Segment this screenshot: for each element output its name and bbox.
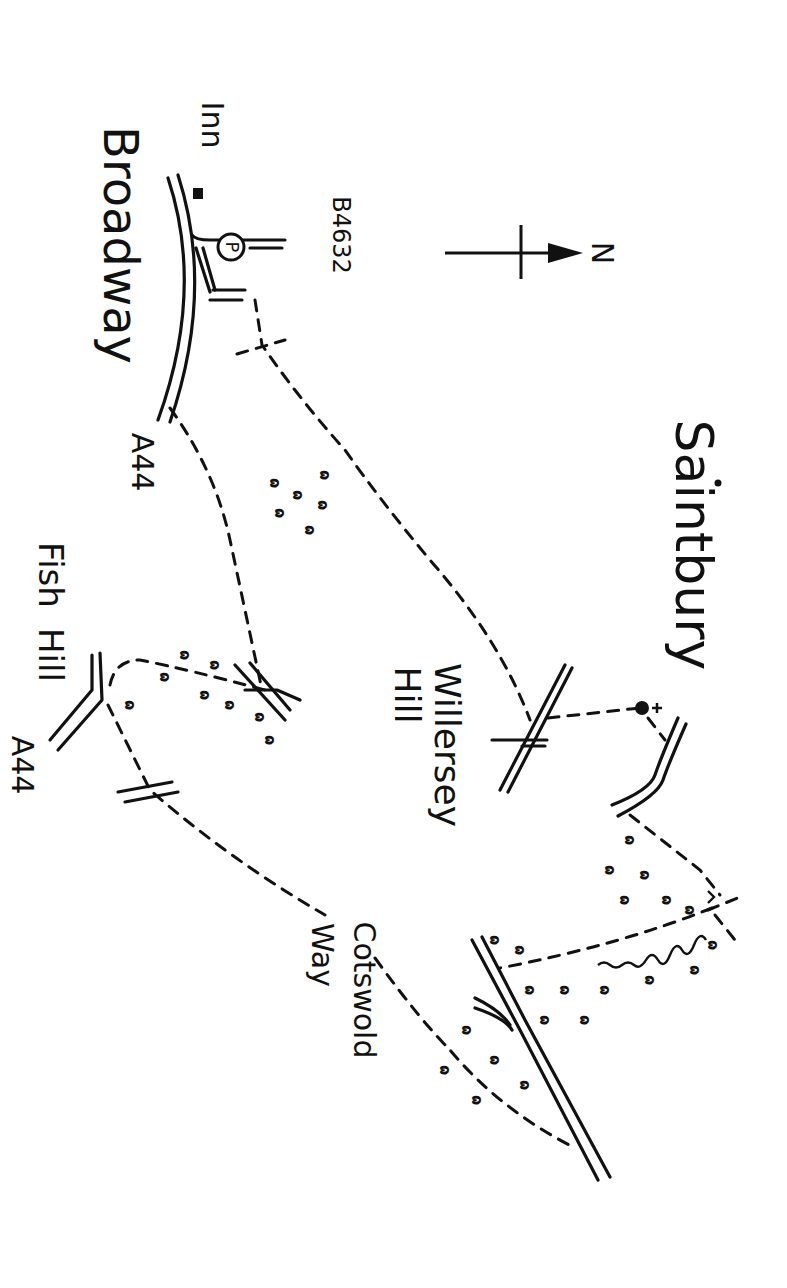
svg-text:ɷ: ɷ bbox=[636, 870, 654, 880]
place-label-broadway: Broadway bbox=[93, 126, 149, 364]
svg-text:ɷ: ɷ bbox=[261, 735, 279, 745]
svg-text:ɷ: ɷ bbox=[314, 500, 332, 510]
tree-cluster-saintbury: ɷ ɷ ɷ ɷ ɷ ɷ bbox=[601, 835, 699, 915]
footpath-cross-south bbox=[715, 915, 735, 940]
svg-text:ɷ: ɷ bbox=[316, 470, 334, 480]
saintbury-road bbox=[612, 718, 686, 816]
svg-text:ɷ: ɷ bbox=[596, 985, 614, 995]
place-label-willersey-hill: Hill bbox=[387, 666, 428, 723]
svg-text:ɷ: ɷ bbox=[289, 490, 307, 500]
svg-text:ɷ: ɷ bbox=[486, 935, 504, 945]
svg-text:ɷ: ɷ bbox=[156, 672, 174, 682]
north-label: N bbox=[585, 242, 620, 264]
svg-text:ɷ: ɷ bbox=[616, 895, 634, 905]
svg-text:ɷ: ɷ bbox=[511, 945, 529, 955]
svg-text:ɷ: ɷ bbox=[556, 985, 574, 995]
footpath-fishhill-loop bbox=[110, 660, 265, 690]
svg-text:ɷ: ɷ bbox=[206, 660, 224, 670]
svg-text:ɷ: ɷ bbox=[621, 835, 639, 845]
svg-text:ɷ: ɷ bbox=[686, 965, 704, 975]
footpath-broadway-fishhill bbox=[170, 408, 262, 690]
svg-text:ɷ: ɷ bbox=[486, 1055, 504, 1065]
place-label-inn: Inn bbox=[195, 102, 230, 149]
svg-text:ɷ: ɷ bbox=[704, 940, 722, 950]
svg-text:ɷ: ɷ bbox=[271, 508, 289, 518]
tree-cluster-cotswold: ɷ ɷ ɷ ɷ ɷ bbox=[436, 1025, 534, 1105]
road-label-a44-broadway: A44 bbox=[125, 433, 160, 492]
svg-text:ɷ: ɷ bbox=[458, 1025, 476, 1035]
footpath-broadway-willersey bbox=[255, 300, 530, 720]
svg-text:ɷ: ɷ bbox=[536, 1015, 554, 1025]
place-label-willersey: Willersey bbox=[427, 663, 468, 827]
svg-text:ɷ: ɷ bbox=[251, 712, 269, 722]
road-label-a44-fishhill: A44 bbox=[5, 736, 40, 795]
footpath-cotswold-way bbox=[375, 958, 575, 1148]
place-label-cotswold-way: Way bbox=[305, 923, 340, 987]
svg-text:ɷ: ɷ bbox=[468, 1095, 486, 1105]
walking-route-map: N P Broadway Inn B4632 A44 ɷ ɷ ɷ ɷ ɷ ɷ bbox=[0, 0, 787, 1288]
parking-label: P bbox=[222, 242, 243, 253]
svg-text:ɷ: ɷ bbox=[176, 650, 194, 660]
footpath-fishhill-cotswold bbox=[108, 705, 325, 915]
place-label-fish: Fish bbox=[31, 542, 71, 608]
svg-text:ɷ: ɷ bbox=[521, 985, 539, 995]
svg-text:ɷ: ɷ bbox=[196, 690, 214, 700]
road-label-b4632: B4632 bbox=[327, 196, 355, 274]
svg-text:ɷ: ɷ bbox=[641, 975, 659, 985]
footpath-to-road bbox=[500, 908, 712, 968]
road-crossing-south bbox=[118, 782, 178, 802]
church-icon bbox=[635, 701, 649, 715]
footpath-willersey-church bbox=[548, 708, 640, 718]
tree-cluster-fishhill: ɷ ɷ ɷ ɷ ɷ ɷ ɷ ɷ bbox=[121, 650, 279, 745]
inn-marker-icon bbox=[193, 188, 203, 199]
svg-text:ɷ: ɷ bbox=[658, 895, 676, 905]
svg-text:ɷ: ɷ bbox=[221, 700, 239, 710]
place-label-saintbury: Saintbury bbox=[664, 420, 724, 671]
place-label-fish-hill: Hill bbox=[31, 628, 71, 682]
footpath-church-road bbox=[648, 718, 665, 740]
svg-text:ɷ: ɷ bbox=[301, 525, 319, 535]
footpath-saintbury-south bbox=[630, 815, 720, 895]
svg-text:ɷ: ɷ bbox=[266, 478, 284, 488]
svg-text:ɷ: ɷ bbox=[601, 865, 619, 875]
b4632-junction: P bbox=[192, 234, 285, 300]
svg-text:ɷ: ɷ bbox=[681, 905, 699, 915]
svg-text:ɷ: ɷ bbox=[576, 1015, 594, 1025]
a44-road-broadway bbox=[158, 175, 195, 422]
svg-text:ɷ: ɷ bbox=[121, 700, 139, 710]
tree-cluster-broadway: ɷ ɷ ɷ ɷ ɷ ɷ bbox=[266, 470, 334, 535]
svg-text:ɷ: ɷ bbox=[436, 1065, 454, 1075]
willersey-road bbox=[492, 665, 572, 792]
svg-text:ɷ: ɷ bbox=[516, 1080, 534, 1090]
north-arrow-icon: N bbox=[445, 225, 620, 279]
place-label-cotswold: Cotswold bbox=[347, 922, 382, 1059]
